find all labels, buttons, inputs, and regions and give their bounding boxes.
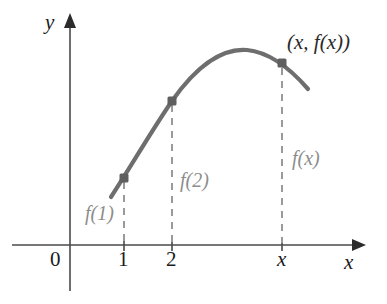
function-graph-figure: y x 0 1 2 x f(1) f(2) f(x) (x, f(x)) (0, 0, 387, 304)
point-coordinate-label: (x, f(x)) (287, 32, 350, 53)
x-tick-label-x: x (277, 249, 286, 270)
x-tick-label-2: 2 (166, 249, 177, 270)
y-axis-arrowhead (64, 13, 76, 28)
curve-point-markers (120, 59, 287, 183)
y-axis-label: y (45, 12, 54, 33)
point-marker-at-1 (120, 174, 129, 183)
x-axis-label: x (344, 252, 353, 273)
x-axis-arrowhead (352, 239, 366, 251)
point-marker-at-x (278, 59, 287, 68)
origin-label: 0 (50, 249, 61, 270)
point-marker-at-2 (168, 97, 177, 106)
f-of-x-label: f(x) (292, 148, 320, 168)
x-tick-label-1: 1 (118, 249, 129, 270)
f-of-1-label: f(1) (85, 203, 114, 223)
dashed-drop-lines (124, 68, 282, 243)
f-of-2-label: f(2) (180, 170, 209, 190)
function-curve (111, 50, 308, 197)
